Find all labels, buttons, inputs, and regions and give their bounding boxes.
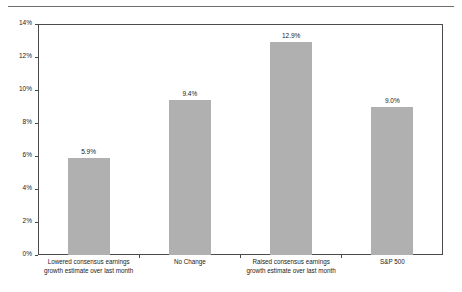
y-axis-tick-label-4: 8% (23, 118, 32, 125)
x-axis-category-label-0-line1: Lowered consensus earnings (48, 258, 130, 265)
bar-value-label-1: 9.4% (160, 90, 220, 98)
bar-3[interactable] (371, 107, 413, 256)
y-axis-tick-label-3: 6% (23, 151, 32, 158)
x-axis-category-label-3-line1: S&P 500 (380, 258, 405, 265)
bar-value-label-0: 5.9% (59, 148, 119, 156)
bar-value-label-2: 12.9% (261, 32, 321, 40)
y-axis-tick-label-2: 4% (23, 184, 32, 191)
y-axis-tick-label-5: 10% (19, 85, 32, 92)
bar-2[interactable] (270, 42, 312, 255)
header-divider-rule (8, 6, 454, 7)
x-axis-category-label-3: S&P 500 (332, 258, 452, 267)
y-axis-tick-label-0: 0% (23, 250, 32, 257)
chart-page: 0% 2% 4% 6% 8% 10% 12% 14% (0, 0, 462, 292)
bar-1[interactable] (169, 100, 211, 255)
y-axis: 0% 2% 4% 6% 8% 10% 12% 14% (0, 24, 38, 255)
y-axis-tick-label-7: 14% (19, 19, 32, 26)
bar-0[interactable] (68, 158, 110, 255)
y-axis-tick-label-6: 12% (19, 52, 32, 59)
y-axis-tick-label-1: 2% (23, 217, 32, 224)
x-axis-category-label-1-line1: No Change (174, 258, 206, 265)
bar-value-label-3: 9.0% (362, 97, 422, 105)
x-axis-category-labels: Lowered consensus earnings growth estima… (38, 258, 443, 282)
x-axis-category-label-2-line2: growth estimate over last month (231, 267, 351, 276)
x-axis-category-label-0-line2: growth estimate over last month (29, 267, 149, 276)
bars-layer: 5.9% 9.4% 12.9% 9.0% (38, 24, 443, 255)
x-axis-category-label-2-line1: Raised consensus earnings (252, 258, 329, 265)
